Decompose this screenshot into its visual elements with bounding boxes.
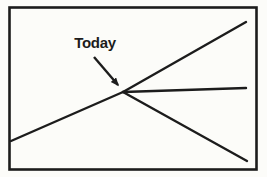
lower-projection-line xyxy=(123,92,247,161)
diagram-page: Today xyxy=(0,0,267,177)
today-label: Today xyxy=(74,35,116,50)
upper-projection-line xyxy=(123,22,246,92)
diagram-lines xyxy=(11,22,247,161)
past-trend-line xyxy=(11,92,123,141)
flat-projection-line xyxy=(123,88,246,92)
today-arrow xyxy=(94,57,118,85)
diagram-svg xyxy=(0,0,267,177)
